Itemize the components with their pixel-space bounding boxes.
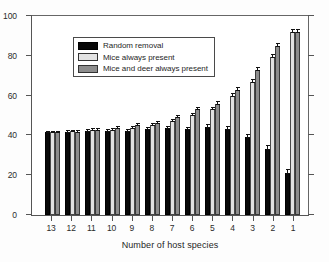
x-axis-ticks [31, 216, 309, 222]
bar-group [42, 16, 62, 215]
y-axis-tick-label: 20 [8, 170, 17, 180]
error-bar [167, 126, 168, 129]
bar [135, 125, 140, 215]
bar [115, 128, 120, 215]
y-axis-tick-label: 100 [3, 11, 17, 21]
bar [215, 104, 220, 215]
bar-rect [75, 132, 80, 215]
x-axis-tick-label: 8 [142, 223, 162, 237]
x-axis-tick [182, 216, 202, 222]
legend-item: Mice always present [78, 53, 208, 62]
bar [95, 130, 100, 215]
error-bar [217, 101, 218, 105]
x-axis-tick-label: 6 [182, 223, 202, 237]
bar-rect [255, 70, 260, 215]
x-axis-tick [222, 216, 242, 222]
x-axis-tick [162, 216, 182, 222]
x-axis-tick-label: 12 [61, 223, 81, 237]
bar-rect [55, 132, 60, 215]
error-bar [72, 130, 73, 133]
bar-rect [115, 128, 120, 215]
bar-group [282, 16, 302, 215]
error-bar [77, 130, 78, 133]
error-bar [177, 115, 178, 118]
bar-group [262, 16, 282, 215]
error-bar [207, 124, 208, 128]
bar [295, 32, 300, 215]
error-bar [252, 79, 253, 83]
x-axis-tick-label: 10 [101, 223, 121, 237]
x-axis-tick-label: 11 [81, 223, 101, 237]
plot-area: 020406080100 Random removal Mice always … [31, 15, 309, 216]
error-bar [267, 145, 268, 150]
y-axis-tick-right [308, 134, 314, 135]
chart-legend: Random removal Mice always present Mice … [73, 37, 215, 77]
y-axis-tick-label: 60 [8, 91, 17, 101]
x-axis-tick [202, 216, 222, 222]
bar-rect [235, 90, 240, 215]
x-axis-tick [283, 216, 303, 222]
error-bar [92, 128, 93, 131]
error-bar [57, 131, 58, 134]
bar-rect [275, 46, 280, 215]
x-axis-tick [41, 216, 61, 222]
bar [175, 117, 180, 215]
legend-swatch-random-removal [78, 42, 98, 50]
error-bar [257, 67, 258, 71]
bar [55, 132, 60, 215]
error-bar [197, 107, 198, 111]
legend-item: Mice and deer always present [78, 64, 208, 73]
bar-rect [135, 125, 140, 215]
error-bar [272, 54, 273, 58]
error-bar [67, 130, 68, 133]
y-axis-tick-label: 0 [12, 210, 17, 220]
error-bar [52, 131, 53, 134]
bar [75, 132, 80, 215]
y-axis-tick-right [308, 95, 314, 96]
y-axis-tick-right [308, 214, 314, 215]
x-axis-tick [263, 216, 283, 222]
bar-rect [195, 109, 200, 215]
x-axis-labels: 13121110987654321 [31, 223, 309, 237]
error-bar [157, 121, 158, 124]
y-axis-tick-right [308, 15, 314, 16]
x-axis-tick [122, 216, 142, 222]
bar-group [242, 16, 262, 215]
bar [235, 90, 240, 215]
x-axis-tick-label: 13 [41, 223, 61, 237]
figure: 020406080100 Random removal Mice always … [0, 0, 329, 262]
x-axis-tick [142, 216, 162, 222]
error-bar [127, 129, 128, 132]
x-axis-tick-label: 5 [202, 223, 222, 237]
error-bar [227, 126, 228, 130]
error-bar [172, 119, 173, 122]
error-bar [107, 129, 108, 132]
x-axis-tick-label: 7 [162, 223, 182, 237]
y-axis-tick-right [308, 55, 314, 56]
error-bar [237, 87, 238, 91]
error-bar [97, 128, 98, 131]
error-bar [117, 126, 118, 129]
error-bar [287, 169, 288, 173]
bar [275, 46, 280, 215]
error-bar [152, 123, 153, 126]
error-bar [247, 134, 248, 138]
bar [255, 70, 260, 215]
bar-rect [95, 130, 100, 215]
error-bar [147, 127, 148, 130]
bar-rect [215, 104, 220, 215]
bar-rect [175, 117, 180, 215]
error-bar [112, 128, 113, 131]
error-bar [212, 107, 213, 111]
error-bar [132, 126, 133, 129]
y-axis-tick-label: 80 [8, 51, 17, 61]
y-axis-tick-right [308, 174, 314, 175]
legend-label: Mice always present [103, 53, 175, 62]
x-axis-tick [243, 216, 263, 222]
error-bar [297, 29, 298, 33]
x-axis-tick-label: 4 [222, 223, 242, 237]
error-bar [137, 123, 138, 126]
error-bar [192, 113, 193, 116]
bar-group [222, 16, 242, 215]
error-bar [187, 127, 188, 130]
